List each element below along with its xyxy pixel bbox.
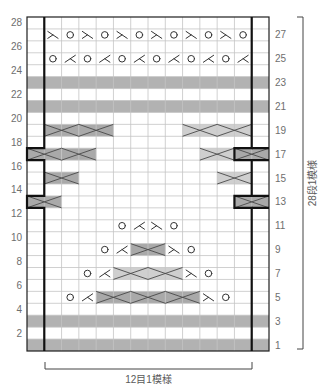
yo-icon bbox=[188, 55, 195, 62]
yo-icon bbox=[50, 55, 57, 62]
ssk-icon bbox=[169, 246, 179, 253]
repeat-height-label: 28段1模様 bbox=[306, 160, 318, 207]
yo-icon bbox=[84, 55, 91, 62]
grid bbox=[27, 17, 269, 351]
ssk-icon bbox=[48, 31, 58, 38]
yo-icon bbox=[119, 222, 126, 229]
row-number-left: 4 bbox=[16, 304, 22, 315]
row-number-right: 15 bbox=[275, 173, 287, 184]
yo-icon bbox=[101, 246, 108, 253]
row-number-left: 10 bbox=[11, 232, 23, 243]
k2tog-icon bbox=[117, 246, 127, 253]
yo-icon bbox=[67, 294, 74, 301]
yo-icon bbox=[205, 270, 212, 277]
row-number-left: 22 bbox=[11, 89, 23, 100]
yo-icon bbox=[205, 32, 212, 39]
knitting-chart: 282624222018161412108642 272523211917151… bbox=[0, 0, 320, 386]
row-number-right: 5 bbox=[275, 292, 281, 303]
row-number-right: 27 bbox=[275, 29, 287, 40]
ssk-icon bbox=[82, 31, 92, 38]
width-bracket: 12目1模様 bbox=[45, 362, 252, 385]
row-number-right: 19 bbox=[275, 125, 287, 136]
row-number-right: 9 bbox=[275, 244, 281, 255]
row-number-left: 18 bbox=[11, 137, 23, 148]
row-number-left: 8 bbox=[16, 256, 22, 267]
height-bracket: 28段1模様 bbox=[297, 17, 318, 349]
k2tog-icon bbox=[65, 55, 75, 62]
yo-icon bbox=[222, 55, 229, 62]
ssk-icon bbox=[186, 31, 196, 38]
row-number-right: 3 bbox=[275, 316, 281, 327]
row-number-left: 6 bbox=[16, 280, 22, 291]
row-number-right: 23 bbox=[275, 77, 287, 88]
row-number-left: 16 bbox=[11, 161, 23, 172]
chart-canvas: 282624222018161412108642 272523211917151… bbox=[0, 0, 320, 386]
row-number-left: 20 bbox=[11, 113, 23, 124]
k2tog-icon bbox=[169, 55, 179, 62]
left-row-numbers: 282624222018161412108642 bbox=[11, 17, 23, 338]
row-number-left: 2 bbox=[16, 328, 22, 339]
row-number-right: 17 bbox=[275, 149, 287, 160]
ssk-icon bbox=[203, 294, 213, 301]
row-number-left: 14 bbox=[11, 184, 23, 195]
k2tog-icon bbox=[100, 55, 110, 62]
row-number-left: 28 bbox=[11, 17, 23, 28]
yo-icon bbox=[136, 32, 143, 39]
k2tog-icon bbox=[100, 270, 110, 277]
k2tog-icon bbox=[203, 55, 213, 62]
row-number-right: 1 bbox=[275, 340, 281, 351]
yo-icon bbox=[222, 294, 229, 301]
row-number-right: 21 bbox=[275, 101, 287, 112]
yo-icon bbox=[153, 55, 160, 62]
row-number-right: 25 bbox=[275, 53, 287, 64]
repeat-width-label: 12目1模様 bbox=[125, 373, 172, 385]
yo-icon bbox=[101, 32, 108, 39]
row-number-right: 11 bbox=[275, 220, 286, 231]
row-number-left: 26 bbox=[11, 41, 23, 52]
k2tog-icon bbox=[238, 55, 248, 62]
yo-icon bbox=[119, 55, 126, 62]
ssk-icon bbox=[186, 270, 196, 277]
yo-icon bbox=[84, 270, 91, 277]
k2tog-icon bbox=[82, 294, 92, 301]
right-row-numbers: 27252321191715131197531 bbox=[275, 29, 287, 350]
yo-icon bbox=[188, 246, 195, 253]
height-bracket-line bbox=[297, 17, 303, 349]
width-bracket-line bbox=[45, 362, 252, 369]
yo-icon bbox=[171, 32, 178, 39]
yo-icon bbox=[171, 222, 178, 229]
ssk-icon bbox=[117, 31, 127, 38]
k2tog-icon bbox=[134, 222, 144, 229]
yo-icon bbox=[240, 32, 247, 39]
ssk-icon bbox=[152, 31, 162, 38]
grid-lines bbox=[27, 17, 269, 351]
ssk-icon bbox=[221, 31, 231, 38]
row-number-right: 13 bbox=[275, 196, 287, 207]
ssk-icon bbox=[152, 222, 162, 229]
k2tog-icon bbox=[134, 55, 144, 62]
row-number-left: 12 bbox=[11, 208, 23, 219]
yo-icon bbox=[67, 32, 74, 39]
row-number-left: 24 bbox=[11, 65, 23, 76]
row-number-right: 7 bbox=[275, 268, 281, 279]
